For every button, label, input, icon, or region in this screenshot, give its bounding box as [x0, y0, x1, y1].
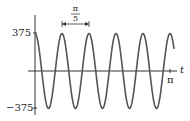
y-label-top: 375	[12, 28, 31, 38]
x-axis-label: t	[180, 65, 184, 75]
y-label-bottom: −375	[6, 103, 33, 113]
period-numerator: π	[71, 5, 80, 13]
period-denominator: 5	[71, 15, 80, 23]
x-label-pi: π	[167, 75, 174, 85]
